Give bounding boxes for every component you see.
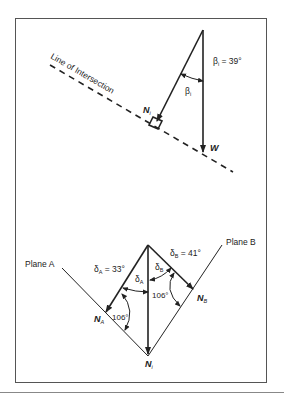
angle-a-arc — [122, 294, 130, 330]
delta-b-value-label: δB = 41° — [170, 248, 201, 259]
angle-b-label: 106° — [152, 291, 169, 300]
normal-b-label: NB — [197, 293, 208, 304]
plane-b-label: Plane B — [226, 237, 256, 247]
normal-label: Ni — [143, 105, 152, 116]
right-angle-marker — [149, 117, 162, 129]
normal-i-label: Ni — [145, 359, 154, 370]
vector-diagram: Line of Intersection βi = 39° βi Ni W — [0, 0, 284, 397]
top-panel: Line of Intersection βi = 39° βi Ni W — [49, 30, 242, 172]
delta-b-label: δB — [155, 262, 164, 273]
delta-a-arc — [123, 288, 148, 292]
beta-label: βi — [185, 86, 191, 97]
delta-a-value-label: δA = 33° — [94, 264, 125, 275]
angle-b-arc — [170, 273, 180, 306]
beta-angle-arc — [181, 74, 203, 81]
line-of-intersection-label: Line of Intersection — [49, 51, 116, 96]
bottom-panel: Plane A Plane B δA = 33° δB = 41° δA δB … — [25, 237, 256, 370]
weight-label: W — [210, 143, 220, 153]
normal-a-label: NA — [94, 314, 105, 325]
angle-a-label: 106° — [112, 313, 129, 322]
normal-vector — [157, 30, 203, 121]
beta-value-label: βi = 39° — [213, 56, 242, 67]
line-of-intersection — [50, 65, 233, 172]
plane-a-label: Plane A — [25, 259, 55, 269]
delta-a-label: δA — [135, 274, 144, 285]
